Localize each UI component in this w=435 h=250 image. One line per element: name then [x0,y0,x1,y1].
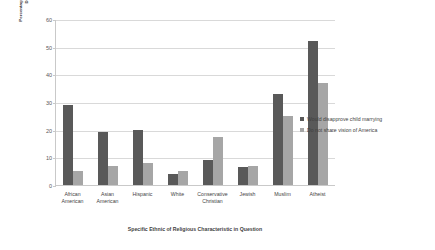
x-axis-tick-label-line: Conservative [195,191,230,198]
y-axis-tick-mark [53,186,56,187]
x-axis-tick-label-line: White [160,191,195,198]
legend-label: Do not share vision of America [307,127,377,133]
y-axis-tick-label: 50 [46,45,52,51]
x-axis-tick-label: AsianAmerican [90,188,125,214]
bar-group [161,20,196,185]
x-axis-tick-label-line: African [55,191,90,198]
y-axis-tick-label: 30 [46,100,52,106]
x-axis-title: Specific Ethnic of Religious Characteris… [55,226,335,232]
x-axis-tick-label-line: Hispanic [125,191,160,198]
x-axis-tick-label: AfricanAmerican [55,188,90,214]
x-axis-tick-label: White [160,188,195,214]
bar-group [300,20,335,185]
chart-legend: Would disapprove child marryingDo not sh… [300,116,432,138]
legend-item: Would disapprove child marrying [300,116,432,122]
bar [203,160,213,185]
x-axis-tick-label: Hispanic [125,188,160,214]
y-axis-title-line-2: Disapproving of Ethnic or Religious Grou… [24,0,30,42]
bar [133,130,143,185]
plot-area: 0102030405060 [55,20,335,186]
x-axis-tick-label: ConservativeChristian [195,188,230,214]
bar [213,137,223,185]
x-axis-tick-label: Jewish [230,188,265,214]
bar [98,132,108,185]
bar [248,166,258,185]
bar [178,171,188,185]
bar [308,41,318,185]
x-axis-tick-labels: AfricanAmericanAsianAmericanHispanicWhit… [55,188,335,214]
bar [73,171,83,185]
x-axis-tick-label-line: Atheist [300,191,335,198]
y-axis-tick-label: 0 [49,183,52,189]
x-axis-tick-label: Atheist [300,188,335,214]
legend-label: Would disapprove child marrying [307,116,382,122]
legend-swatch-icon [300,117,304,121]
y-axis-title: Percentage of Americans without Characte… [18,0,38,42]
bar-group [230,20,265,185]
bar [283,116,293,185]
bar [238,167,248,185]
bar [143,163,153,185]
y-axis-tick-label: 40 [46,72,52,78]
bar-group [56,20,91,185]
x-axis-tick-label-line: American [55,198,90,205]
bar [168,174,178,185]
bar-group [265,20,300,185]
bar-group [91,20,126,185]
bar [63,105,73,185]
y-axis-tick-label: 10 [46,155,52,161]
bars-layer [56,20,335,185]
x-axis-tick-label-line: Asian [90,191,125,198]
x-axis-tick-label-line: Christian [195,198,230,205]
x-axis-tick-label-line: Jewish [230,191,265,198]
bar-group [126,20,161,185]
legend-item: Do not share vision of America [300,127,432,133]
x-axis-tick-label: Muslim [265,188,300,214]
bar [108,166,118,185]
y-axis-tick-label: 60 [46,17,52,23]
bar-chart: Percentage of Americans without Characte… [0,0,435,250]
x-axis-tick-label-line: Muslim [265,191,300,198]
legend-swatch-icon [300,128,304,132]
x-axis-tick-label-line: American [90,198,125,205]
bar [273,94,283,185]
bar-group [196,20,231,185]
y-axis-tick-label: 20 [46,128,52,134]
